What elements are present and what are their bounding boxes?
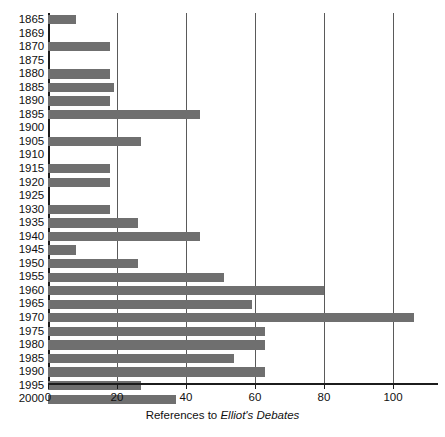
bar-1950 (48, 259, 138, 268)
bar-row: 1885 (0, 81, 445, 95)
y-axis-label-1930: 1930 (0, 203, 44, 217)
y-axis-label-1890: 1890 (0, 94, 44, 108)
x-tick-0 (48, 383, 49, 389)
bar-row: 1955 (0, 270, 445, 284)
y-axis-label-1880: 1880 (0, 67, 44, 81)
bar-track (48, 284, 438, 298)
y-axis-label-1865: 1865 (0, 13, 44, 27)
y-axis-label-1945: 1945 (0, 243, 44, 257)
x-tick-label-40: 40 (180, 391, 193, 403)
bar-row: 1950 (0, 257, 445, 271)
bar-row: 1970 (0, 311, 445, 325)
y-axis-label-1940: 1940 (0, 230, 44, 244)
bar-row: 1875 (0, 54, 445, 68)
bar-1870 (48, 42, 110, 51)
plot-area: 1865186918701875188018851890189519001905… (0, 0, 445, 437)
bar-track (48, 67, 438, 81)
bar-1970 (48, 313, 414, 322)
bar-track (48, 27, 438, 41)
bar-track (48, 379, 438, 393)
y-axis-label-1875: 1875 (0, 54, 44, 68)
bar-track (48, 392, 438, 406)
bar-track (48, 135, 438, 149)
bar-row: 1975 (0, 325, 445, 339)
x-tick-label-60: 60 (249, 391, 262, 403)
bar-1915 (48, 164, 110, 173)
bar-1930 (48, 205, 110, 214)
bar-row: 1995 (0, 379, 445, 393)
x-tick-80 (324, 383, 325, 389)
bar-row: 1880 (0, 67, 445, 81)
x-tick-label-100: 100 (383, 391, 402, 403)
x-tick-label-80: 80 (318, 391, 331, 403)
bar-track (48, 189, 438, 203)
bar-row: 1920 (0, 176, 445, 190)
bar-1985 (48, 354, 234, 363)
bar-row: 1915 (0, 162, 445, 176)
bar-row: 1895 (0, 108, 445, 122)
y-axis-label-1920: 1920 (0, 176, 44, 190)
bar-row: 1960 (0, 284, 445, 298)
bar-track (48, 216, 438, 230)
y-axis-label-1915: 1915 (0, 162, 44, 176)
x-axis-label-plain: References to (146, 409, 221, 421)
y-axis-label-1905: 1905 (0, 135, 44, 149)
bar-row: 1900 (0, 121, 445, 135)
y-axis-label-1955: 1955 (0, 270, 44, 284)
x-axis-label: References to Elliot's Debates (0, 409, 445, 421)
y-axis-label-1965: 1965 (0, 297, 44, 311)
bar-1960 (48, 286, 324, 295)
y-axis-label-1935: 1935 (0, 216, 44, 230)
bar-row: 1865 (0, 13, 445, 27)
bar-row: 1890 (0, 94, 445, 108)
y-axis-label-1950: 1950 (0, 257, 44, 271)
y-axis-label-1970: 1970 (0, 311, 44, 325)
bar-track (48, 365, 438, 379)
bar-1940 (48, 232, 200, 241)
bar-row: 1940 (0, 230, 445, 244)
bar-1935 (48, 218, 138, 227)
bar-track (48, 121, 438, 135)
bar-row: 2000 (0, 392, 445, 406)
bar-chart: 1865186918701875188018851890189519001905… (0, 0, 445, 437)
bar-row: 1935 (0, 216, 445, 230)
y-axis-label-1900: 1900 (0, 121, 44, 135)
y-axis-label-1885: 1885 (0, 81, 44, 95)
bar-1895 (48, 110, 200, 119)
bar-1945 (48, 245, 76, 254)
bar-1905 (48, 137, 141, 146)
bar-track (48, 270, 438, 284)
bar-1885 (48, 83, 114, 92)
bar-1865 (48, 15, 76, 24)
bar-track (48, 13, 438, 27)
bar-track (48, 40, 438, 54)
x-tick-100 (393, 383, 394, 389)
bar-track (48, 311, 438, 325)
bar-track (48, 243, 438, 257)
bar-track (48, 148, 438, 162)
bar-row: 1870 (0, 40, 445, 54)
x-axis-line (48, 383, 438, 385)
y-axis-label-1990: 1990 (0, 365, 44, 379)
bar-track (48, 325, 438, 339)
x-tick-label-0: 0 (45, 391, 51, 403)
bar-track (48, 162, 438, 176)
bar-1955 (48, 273, 224, 282)
bar-1980 (48, 340, 265, 349)
y-axis-label-1985: 1985 (0, 352, 44, 366)
bar-row: 1980 (0, 338, 445, 352)
x-axis-label-italic: Elliot's Debates (220, 409, 299, 421)
bar-track (48, 352, 438, 366)
x-tick-label-20: 20 (111, 391, 124, 403)
bar-track (48, 176, 438, 190)
bar-row: 1965 (0, 297, 445, 311)
y-axis-label-2000: 2000 (0, 392, 44, 406)
bar-1975 (48, 327, 265, 336)
bar-1880 (48, 69, 110, 78)
bar-1990 (48, 367, 265, 376)
bar-track (48, 203, 438, 217)
y-axis-label-1995: 1995 (0, 379, 44, 393)
y-axis-label-1870: 1870 (0, 40, 44, 54)
bar-1920 (48, 178, 110, 187)
bar-track (48, 230, 438, 244)
